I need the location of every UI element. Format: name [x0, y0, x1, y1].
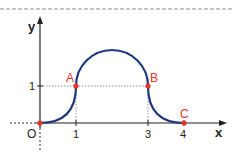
x-tick-label-1: 1	[73, 128, 79, 140]
point-label-C: C	[180, 107, 189, 121]
function-curve	[40, 50, 184, 123]
y-axis-label: y	[28, 19, 36, 34]
point-label-B: B	[150, 71, 158, 85]
y-tick-label-1: 1	[29, 80, 35, 92]
origin-label: O	[27, 127, 36, 141]
point-label-A: A	[66, 71, 74, 85]
x-tick-label-3: 3	[145, 128, 151, 140]
point-A	[73, 83, 78, 88]
point-O	[37, 120, 42, 125]
function-graph: y x O 1 3 4 1 A B C	[0, 0, 239, 155]
point-C	[181, 120, 186, 125]
x-axis-label: x	[215, 125, 223, 140]
x-tick-label-4: 4	[180, 128, 186, 140]
y-axis-arrow-icon	[37, 16, 43, 24]
